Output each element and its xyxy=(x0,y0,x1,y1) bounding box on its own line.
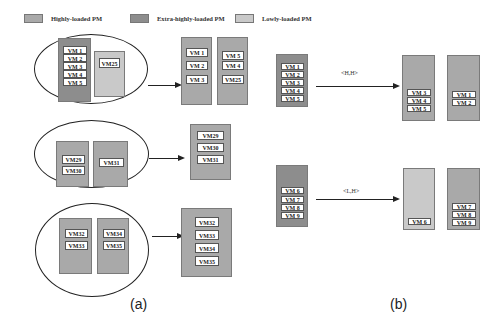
group-1-ellipse xyxy=(34,34,148,104)
pm-highly-loaded: VM 3 VM 4 VM 5 xyxy=(402,55,435,121)
vm-box: VM 5 xyxy=(281,95,304,102)
vm-box: VM 2 xyxy=(186,61,208,70)
vm-box: VM 3 xyxy=(407,89,431,96)
edge-label: <L,H> xyxy=(343,188,359,194)
vm-box: VM34 xyxy=(195,243,219,253)
pm-extra-highly-loaded: VM 1 VM 2 VM 3 VM 4 VM 5 xyxy=(276,54,308,107)
arrow xyxy=(316,199,394,200)
vm-box: VM30 xyxy=(197,143,224,152)
lowly-loaded-swatch xyxy=(235,14,254,23)
arrow xyxy=(152,236,178,237)
vm-box: VM25 xyxy=(99,58,120,68)
pm-extra-highly-loaded: VM 6 VM 7 VM 8 VM 9 xyxy=(276,165,308,227)
vm-box: VM 4 xyxy=(281,87,304,94)
edge-label: <H,H> xyxy=(341,70,358,76)
pm-highly-loaded: VM 5 VM 4 VM25 xyxy=(217,37,248,105)
vm-box: VM 2 xyxy=(63,54,87,62)
vm-box: VM 9 xyxy=(452,219,476,226)
vm-box: VM33 xyxy=(195,230,219,240)
panel-a-label: (a) xyxy=(130,296,147,312)
pm-highly-loaded: VM29 VM30 VM31 xyxy=(190,124,231,180)
legend-item-highly-loaded: Highly-loaded PM xyxy=(24,13,102,23)
vm-box: VM 1 xyxy=(281,63,304,70)
vm-box: VM32 xyxy=(195,217,219,227)
extra-highly-loaded-swatch xyxy=(130,14,149,23)
pm-extra-highly-loaded: VM 1 VM 2 VM 3 VM 4 VM 5 xyxy=(58,38,91,102)
pm-highly-loaded: VM 1 VM 2 VM 3 xyxy=(181,37,212,105)
vm-box: VM 3 xyxy=(281,79,304,86)
vm-box: VM 1 xyxy=(63,46,87,54)
pm-highly-loaded: VM29 VM30 xyxy=(56,141,89,187)
vm-box: VM 6 xyxy=(281,187,304,194)
vm-box: VM 9 xyxy=(281,212,304,219)
vm-box: VM 5 xyxy=(407,105,431,112)
vm-box: VM33 xyxy=(65,241,88,250)
vm-box: VM 1 xyxy=(186,48,208,57)
panel-b-label: (b) xyxy=(390,296,407,312)
vm-box: VM 8 xyxy=(452,211,476,218)
highly-loaded-swatch xyxy=(24,14,43,23)
pm-highly-loaded: VM 1 VM 2 xyxy=(447,55,480,121)
vm-box: VM 6 xyxy=(408,218,431,225)
pm-highly-loaded: VM32 VM33 xyxy=(59,218,92,274)
vm-box: VM29 xyxy=(197,131,224,140)
vm-box: VM 2 xyxy=(281,71,304,78)
vm-box: VM 1 xyxy=(452,91,476,98)
vm-box: VM30 xyxy=(62,166,85,175)
vm-box: VM35 xyxy=(195,256,219,266)
legend-item-lowly-loaded: Lowly-loaded PM xyxy=(235,13,312,23)
vm-box: VM 5 xyxy=(63,78,87,86)
arrow-head-icon xyxy=(393,83,400,89)
vm-box: VM35 xyxy=(103,241,125,250)
group-3-ellipse xyxy=(35,203,149,297)
arrow-head-icon xyxy=(393,196,400,202)
arrow xyxy=(316,86,394,87)
arrow-head-icon xyxy=(178,155,185,161)
legend-item-extra-highly-loaded: Extra-highly-loaded PM xyxy=(130,13,225,23)
vm-box: VM 8 xyxy=(281,204,304,211)
arrow xyxy=(148,85,176,86)
vm-box: VM29 xyxy=(62,155,85,164)
pm-highly-loaded: VM31 xyxy=(93,141,128,187)
pm-lowly-loaded: VM25 xyxy=(94,51,125,97)
vm-box: VM 4 xyxy=(407,97,431,104)
legend-label: Highly-loaded PM xyxy=(51,15,102,22)
legend-label: Extra-highly-loaded PM xyxy=(157,15,225,22)
vm-box: VM 4 xyxy=(63,70,87,78)
vm-box: VM 2 xyxy=(452,99,476,106)
vm-box: VM 7 xyxy=(452,203,476,210)
vm-box: VM 3 xyxy=(186,75,208,84)
legend-label: Lowly-loaded PM xyxy=(262,15,312,22)
pm-highly-loaded: VM32 VM33 VM34 VM35 xyxy=(181,208,232,277)
vm-box: VM32 xyxy=(65,229,88,238)
vm-box: VM31 xyxy=(99,158,124,167)
vm-box: VM 7 xyxy=(281,196,304,203)
pm-lowly-loaded: VM 6 xyxy=(403,168,435,230)
vm-box: VM 3 xyxy=(63,62,87,70)
vm-box: VM 4 xyxy=(222,61,244,70)
pm-highly-loaded: VM34 VM35 xyxy=(97,218,129,274)
vm-box: VM 5 xyxy=(222,51,244,60)
vm-box: VM25 xyxy=(222,75,244,84)
vm-box: VM31 xyxy=(197,155,224,164)
vm-box: VM34 xyxy=(103,229,125,238)
group-2-ellipse xyxy=(34,120,149,188)
pm-highly-loaded: VM 7 VM 8 VM 9 xyxy=(447,168,480,230)
arrow xyxy=(149,158,179,159)
